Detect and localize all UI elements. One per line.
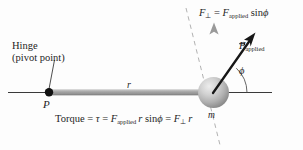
f-perpendicular-equation: F⊥ = Fapplied sinϕ: [199, 7, 268, 19]
hinge-caption-line2: (pivot point): [12, 52, 65, 64]
torque-eq-equals1: =: [87, 113, 93, 124]
f-applied-vector-label: F applied: [239, 40, 265, 52]
fperp-eq-equals: =: [214, 7, 220, 18]
torque-diagram-figure: Hinge (pivot point) P r m ϕ F⊥ = Fapplie…: [0, 0, 303, 150]
torque-eq-tau: τ: [96, 113, 100, 124]
hinge-caption-line1: Hinge: [12, 40, 65, 52]
torque-equation: Torque = τ = Fappliedr sinϕ = F⊥r: [55, 113, 192, 125]
torque-eq-word: Torque: [55, 113, 85, 124]
mass-label: m: [208, 110, 215, 121]
phi-angle-label: ϕ: [239, 65, 244, 77]
fapplied-sub: applied: [245, 45, 264, 52]
torque-eq-perp-symbol: ⊥: [180, 117, 186, 126]
torque-eq-r1: r: [138, 113, 142, 124]
torque-eq-angle: ϕ: [157, 113, 162, 124]
torque-eq-r2: r: [188, 113, 192, 124]
torque-eq-applied-sub: applied: [117, 118, 136, 125]
pivot-point-label: P: [43, 98, 50, 111]
fperp-eq-perp-symbol: ⊥: [205, 11, 211, 20]
fperp-eq-sin: sin: [251, 7, 263, 18]
torque-eq-equals2: =: [102, 113, 108, 124]
rod: [50, 90, 215, 96]
hinge-caption: Hinge (pivot point): [12, 40, 65, 65]
fperp-eq-applied-sub: applied: [229, 12, 248, 19]
fperp-eq-angle: ϕ: [263, 7, 268, 18]
torque-eq-sin: sin: [145, 113, 157, 124]
diagram-canvas: [0, 0, 303, 150]
torque-eq-equals3: =: [165, 113, 171, 124]
radius-label: r: [127, 79, 131, 91]
pivot-point-dot: [45, 88, 53, 96]
